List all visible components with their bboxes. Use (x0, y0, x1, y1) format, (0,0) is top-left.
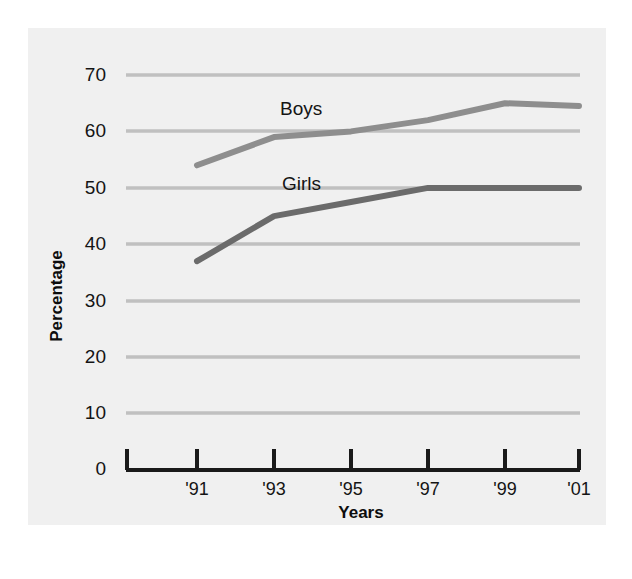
series-line-boys (197, 103, 579, 165)
x-tick-label-01: '01 (549, 479, 609, 500)
chart-figure: 70 60 50 40 30 20 10 0 '91 '93 '95 '97 '… (0, 0, 632, 579)
y-axis-title: Percentage (47, 236, 67, 356)
x-axis-title: Years (296, 503, 426, 523)
x-tick-label-97: '97 (398, 479, 458, 500)
y-tick-label-60: 60 (58, 120, 106, 142)
y-tick-label-50: 50 (58, 177, 106, 199)
series-line-girls (197, 188, 579, 261)
x-tick-label-95: '95 (321, 479, 381, 500)
x-axis (126, 449, 580, 470)
y-tick-label-0: 0 (58, 458, 106, 480)
x-tick-label-91: '91 (167, 479, 227, 500)
x-tick-label-99: '99 (475, 479, 535, 500)
gridlines (126, 75, 580, 413)
x-tick-label-93: '93 (244, 479, 304, 500)
y-tick-label-70: 70 (58, 64, 106, 86)
series-label-girls: Girls (282, 173, 321, 195)
series-label-boys: Boys (280, 98, 322, 120)
y-tick-label-10: 10 (58, 402, 106, 424)
